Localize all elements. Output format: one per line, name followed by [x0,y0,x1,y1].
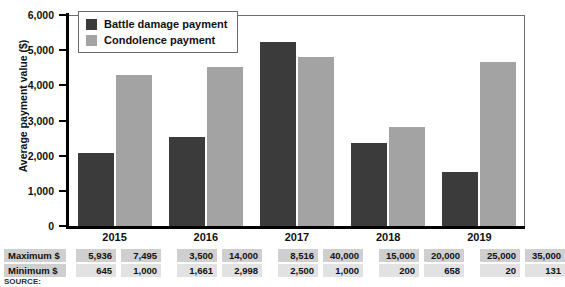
table-group-2016: 1,6612,998 [177,264,262,277]
bar-group-2018 [343,15,434,226]
table-cell-2017-battle-damage: 2,500 [278,264,318,277]
source-note: SOURCE: [4,277,41,287]
legend-label-condolence: Condolence payment [104,34,215,46]
bar-2015-battle-damage[interactable] [78,153,114,226]
y-tick-label: 2,000 [8,151,54,161]
table-cell-2015-condolence: 7,495 [121,249,161,262]
table-cell-2019-condolence: 131 [525,264,565,277]
table-group-2019: 25,00035,000 [480,249,565,262]
table-group-2015: 6451,000 [76,264,161,277]
bar-group-2017 [251,15,342,226]
table-group-2019: 20131 [480,264,565,277]
table-cell-2018-condolence: 20,000 [424,249,464,262]
bar-chart: Average payment value ($) 01,0002,0003,0… [0,0,533,240]
table-group-2016: 3,50014,000 [177,249,262,262]
bar-2016-battle-damage[interactable] [169,137,205,226]
legend-item-condolence: Condolence payment [86,32,227,48]
bar-2019-battle-damage[interactable] [442,172,478,226]
table-cell-2018-battle-damage: 15,000 [379,249,419,262]
table-group-2018: 15,00020,000 [379,249,464,262]
bar-2017-battle-damage[interactable] [260,42,296,226]
x-tick-label-2015: 2015 [69,231,160,243]
summary-table: Maximum $5,9367,4953,50014,0008,51640,00… [4,249,529,279]
table-row: Minimum $6451,0001,6612,9982,5001,000200… [4,264,529,277]
x-tick-label-2018: 2018 [343,231,434,243]
table-row-header: Minimum $ [4,264,66,277]
table-row-header: Maximum $ [4,249,66,262]
table-cell-2016-battle-damage: 1,661 [177,264,217,277]
table-cell-2016-battle-damage: 3,500 [177,249,217,262]
y-tick-label: 0 [8,221,54,231]
legend-item-battle-damage: Battle damage payment [86,16,227,32]
y-tick-label: 6,000 [8,10,54,20]
table-cell-2015-battle-damage: 645 [76,264,116,277]
bar-2017-condolence[interactable] [298,57,334,226]
table-row: Maximum $5,9367,4953,50014,0008,51640,00… [4,249,529,262]
x-axis-tick-labels: 20152016201720182019 [69,231,525,247]
x-tick-label-2016: 2016 [160,231,251,243]
table-cell-2019-battle-damage: 25,000 [480,249,520,262]
bar-2015-condolence[interactable] [116,75,152,226]
table-cell-2019-condolence: 35,000 [525,249,565,262]
bar-2016-condolence[interactable] [207,67,243,226]
table-group-2018: 200658 [379,264,464,277]
table-cell-2016-condolence: 14,000 [222,249,262,262]
table-cell-2016-condolence: 2,998 [222,264,262,277]
x-tick-label-2019: 2019 [434,231,525,243]
table-group-2017: 2,5001,000 [278,264,363,277]
y-tick-label: 5,000 [8,45,54,55]
table-cell-2018-battle-damage: 200 [379,264,419,277]
legend-swatch-icon-light [86,35,97,46]
x-axis-line [66,226,525,229]
table-cell-2015-battle-damage: 5,936 [76,249,116,262]
x-tick-label-2017: 2017 [251,231,342,243]
table-cell-2017-condolence: 1,000 [323,264,363,277]
bar-2019-condolence[interactable] [480,62,516,226]
table-cell-2015-condolence: 1,000 [121,264,161,277]
legend-label-battle-damage: Battle damage payment [104,18,227,30]
y-tick-label: 1,000 [8,186,54,196]
y-tick-label: 3,000 [8,116,54,126]
table-cell-2019-battle-damage: 20 [480,264,520,277]
table-cell-2017-condolence: 40,000 [323,249,363,262]
chart-legend: Battle damage payment Condolence payment [78,11,238,53]
table-cell-2018-condolence: 658 [424,264,464,277]
y-tick-label: 4,000 [8,80,54,90]
bar-group-2019 [434,15,525,226]
legend-swatch-icon-dark [86,19,97,30]
table-group-2017: 8,51640,000 [278,249,363,262]
table-group-2015: 5,9367,495 [76,249,161,262]
table-cell-2017-battle-damage: 8,516 [278,249,318,262]
bar-2018-condolence[interactable] [389,127,425,226]
bar-2018-battle-damage[interactable] [351,143,387,226]
